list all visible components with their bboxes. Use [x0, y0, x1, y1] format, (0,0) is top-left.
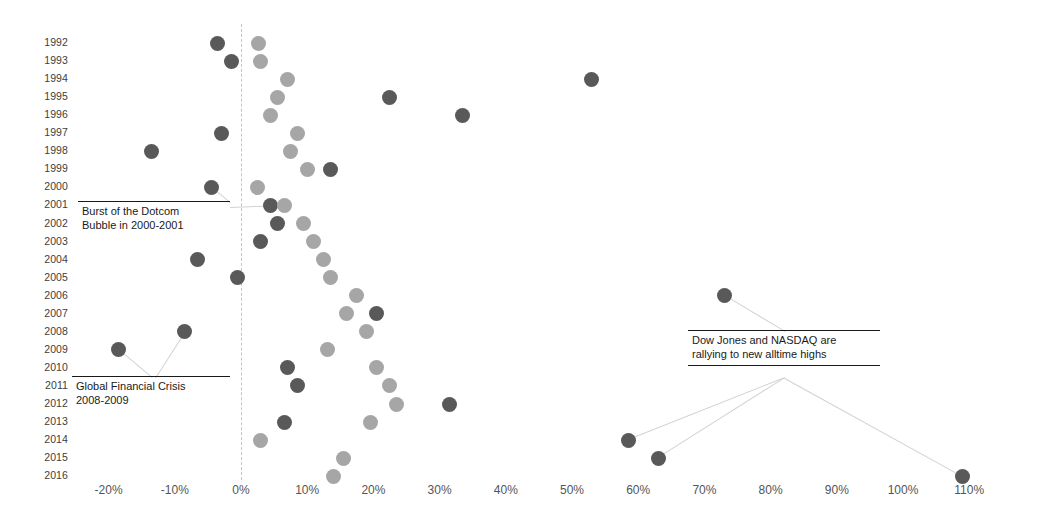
- data-point-series-dark-1996: [455, 108, 470, 123]
- data-point-series-light-2000: [250, 180, 265, 195]
- data-point-series-dark-2012: [442, 397, 457, 412]
- data-point-series-dark-1994: [584, 72, 599, 87]
- data-point-series-light-2002: [296, 216, 311, 231]
- data-point-series-light-1995: [270, 90, 285, 105]
- data-point-series-light-1998: [283, 144, 298, 159]
- data-point-series-dark-2013: [277, 415, 292, 430]
- leader-line: [658, 377, 785, 458]
- x-axis-tick-50%: 50%: [542, 483, 602, 497]
- annotation-dotcom-text: Burst of the Dotcom Bubble in 2000-2001: [78, 202, 230, 235]
- data-point-series-light-2004: [316, 252, 331, 267]
- data-point-series-dark-2004: [190, 252, 205, 267]
- leader-line: [628, 377, 785, 440]
- annotation-gfc-text: Global Financial Crisis 2008-2009: [72, 377, 230, 410]
- x-axis-tick-20%: 20%: [343, 483, 403, 497]
- data-point-series-dark-2000: [204, 180, 219, 195]
- y-axis-tick-2014: 2014: [22, 433, 68, 445]
- y-axis-tick-2016: 2016: [22, 469, 68, 481]
- x-axis-tick-0%: 0%: [211, 483, 271, 497]
- leader-line: [785, 378, 963, 477]
- data-point-series-dark-1992: [210, 36, 225, 51]
- y-axis-tick-1995: 1995: [22, 90, 68, 102]
- data-point-series-dark-1998: [144, 144, 159, 159]
- annotation-rally-text: Dow Jones and NASDAQ are rallying to new…: [688, 331, 880, 364]
- data-point-series-light-1993: [253, 54, 268, 69]
- data-point-series-light-2005: [323, 270, 338, 285]
- leader-line: [724, 295, 785, 332]
- data-point-series-light-2001: [277, 198, 292, 213]
- data-point-series-light-2009: [320, 342, 335, 357]
- y-axis-tick-1998: 1998: [22, 144, 68, 156]
- x-axis-tick-30%: 30%: [410, 483, 470, 497]
- y-axis-tick-2008: 2008: [22, 325, 68, 337]
- data-point-series-dark-2016: [955, 469, 970, 484]
- x-axis-tick-70%: 70%: [674, 483, 734, 497]
- data-point-series-light-2012: [389, 397, 404, 412]
- scatter-chart: 1992199319941995199619971998199920002001…: [0, 0, 1037, 527]
- data-point-series-light-2003: [306, 234, 321, 249]
- y-axis-tick-1994: 1994: [22, 72, 68, 84]
- data-point-series-dark-2011: [290, 378, 305, 393]
- plot-area: 1992199319941995199619971998199920002001…: [0, 0, 1037, 527]
- x-axis-tick-90%: 90%: [807, 483, 867, 497]
- data-point-series-dark-2005: [230, 270, 245, 285]
- data-point-series-light-2015: [336, 451, 351, 466]
- y-axis-tick-2004: 2004: [22, 253, 68, 265]
- y-axis-tick-1992: 1992: [22, 36, 68, 48]
- data-point-series-light-2016: [326, 469, 341, 484]
- y-axis-tick-2001: 2001: [22, 198, 68, 210]
- data-point-series-light-2008: [359, 324, 374, 339]
- x-axis-tick-80%: 80%: [741, 483, 801, 497]
- data-point-series-dark-1997: [214, 126, 229, 141]
- y-axis-tick-1999: 1999: [22, 162, 68, 174]
- y-axis-tick-2005: 2005: [22, 271, 68, 283]
- data-point-series-dark-2003: [253, 234, 268, 249]
- annotation-dotcom: Burst of the Dotcom Bubble in 2000-2001: [78, 201, 230, 235]
- data-point-series-light-2014: [253, 433, 268, 448]
- y-axis-tick-2006: 2006: [22, 289, 68, 301]
- data-point-series-light-2013: [363, 415, 378, 430]
- data-point-series-light-2010: [369, 360, 384, 375]
- data-point-series-light-1994: [280, 72, 295, 87]
- data-point-series-light-1996: [263, 108, 278, 123]
- data-point-series-dark-2006: [717, 288, 732, 303]
- data-point-series-dark-2007: [369, 306, 384, 321]
- data-point-series-light-2011: [382, 378, 397, 393]
- y-axis-tick-2011: 2011: [22, 379, 68, 391]
- data-point-series-dark-1999: [323, 162, 338, 177]
- data-point-series-dark-2015: [651, 451, 666, 466]
- y-axis-tick-2013: 2013: [22, 415, 68, 427]
- y-axis-tick-2007: 2007: [22, 307, 68, 319]
- data-point-series-light-2007: [339, 306, 354, 321]
- y-axis-tick-2003: 2003: [22, 235, 68, 247]
- y-axis-tick-2015: 2015: [22, 451, 68, 463]
- x-axis-tick--20%: -20%: [79, 483, 139, 497]
- data-point-series-dark-1993: [224, 54, 239, 69]
- y-axis-tick-2000: 2000: [22, 180, 68, 192]
- annotation-rally: Dow Jones and NASDAQ are rallying to new…: [688, 330, 880, 366]
- data-point-series-light-2006: [349, 288, 364, 303]
- y-axis-tick-1997: 1997: [22, 126, 68, 138]
- x-axis-tick-40%: 40%: [476, 483, 536, 497]
- zero-reference-line: [241, 24, 242, 480]
- y-axis-tick-2010: 2010: [22, 361, 68, 373]
- data-point-series-light-1992: [251, 36, 266, 51]
- data-point-series-dark-1995: [382, 90, 397, 105]
- annotation-gfc: Global Financial Crisis 2008-2009: [72, 376, 230, 410]
- data-point-series-dark-2002: [270, 216, 285, 231]
- data-point-series-dark-2008: [177, 324, 192, 339]
- x-axis-tick-100%: 100%: [873, 483, 933, 497]
- x-axis-tick-110%: 110%: [939, 483, 999, 497]
- data-point-series-dark-2010: [280, 360, 295, 375]
- y-axis-tick-1993: 1993: [22, 54, 68, 66]
- y-axis-tick-2012: 2012: [22, 397, 68, 409]
- data-point-series-light-1997: [290, 126, 305, 141]
- y-axis-tick-2002: 2002: [22, 217, 68, 229]
- y-axis-tick-2009: 2009: [22, 343, 68, 355]
- x-axis-tick-60%: 60%: [608, 483, 668, 497]
- leader-line: [155, 332, 186, 379]
- x-axis-tick-10%: 10%: [277, 483, 337, 497]
- data-point-series-light-1999: [300, 162, 315, 177]
- y-axis-tick-1996: 1996: [22, 108, 68, 120]
- annotation-rule-bottom: [688, 365, 880, 366]
